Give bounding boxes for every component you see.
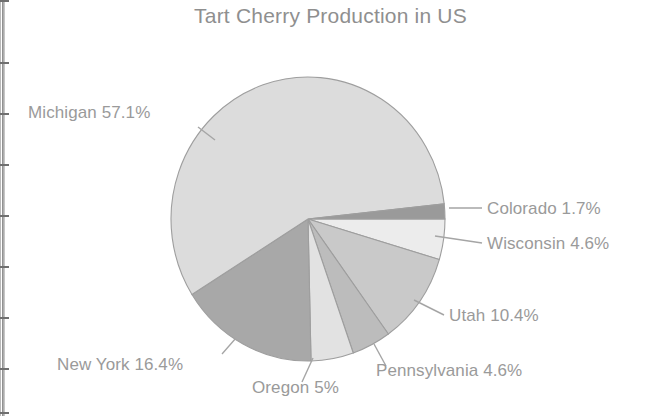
leader-line-utah bbox=[414, 300, 444, 315]
pie-label-oregon: Oregon 5% bbox=[252, 378, 339, 398]
pie-label-pennsylvania: Pennsylvania 4.6% bbox=[376, 361, 522, 381]
pie-label-michigan: Michigan 57.1% bbox=[28, 103, 150, 123]
pie-label-wisconsin: Wisconsin 4.6% bbox=[487, 234, 609, 254]
pie-label-utah: Utah 10.4% bbox=[449, 306, 539, 326]
pie-chart-figure: Tart Cherry Production in US Michigan 57… bbox=[0, 0, 661, 416]
pie-label-colorado: Colorado 1.7% bbox=[487, 199, 601, 219]
pie-area: Michigan 57.1% Colorado 1.7% Wisconsin 4… bbox=[0, 0, 661, 416]
pie-label-new-york: New York 16.4% bbox=[57, 355, 183, 375]
leader-line-newyork bbox=[222, 338, 236, 354]
pie-slices bbox=[171, 77, 445, 361]
